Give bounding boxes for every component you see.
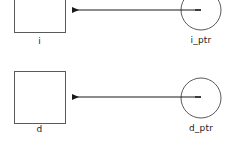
variable-label-d: d bbox=[14, 124, 65, 134]
pointer-label-i-ptr: i_ptr bbox=[176, 35, 226, 45]
pointer-circle-i-ptr bbox=[181, 0, 221, 30]
pointer-circle-d-ptr bbox=[181, 78, 221, 118]
variable-box-i bbox=[15, 0, 66, 33]
pointer-diagram: i i_ptr d d_ptr bbox=[0, 0, 240, 144]
variable-box-d bbox=[15, 72, 66, 124]
pointer-label-d-ptr: d_ptr bbox=[176, 123, 226, 133]
variable-label-i: i bbox=[14, 36, 65, 46]
